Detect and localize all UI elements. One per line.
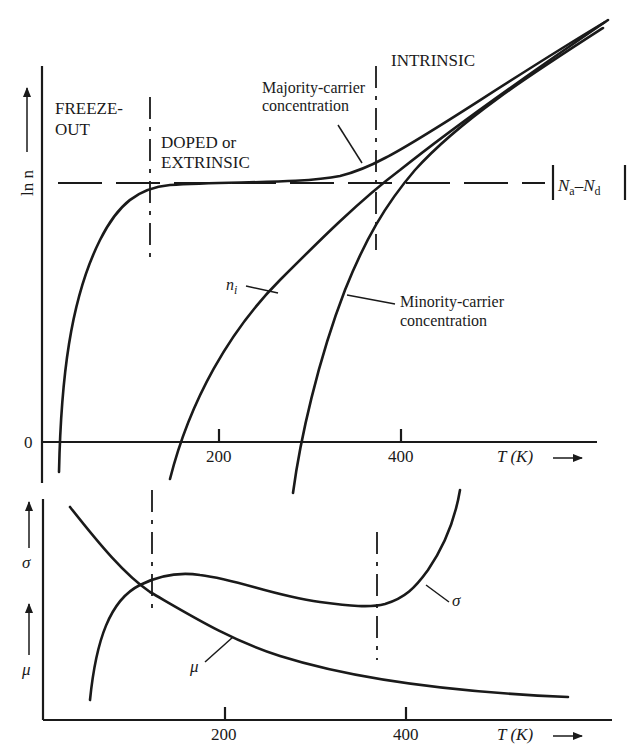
top-y-label: ln n [18, 170, 37, 196]
region-extrinsic: EXTRINSIC [161, 153, 250, 172]
top-x-tick-label-400: 400 [388, 447, 414, 466]
bottom-x-tick-label-200: 200 [211, 725, 237, 744]
minority-carrier-label: Minority-carrier [400, 293, 505, 311]
bottom-y-label-sigma: σ [22, 553, 31, 572]
top-x-tick-label-200: 200 [206, 447, 232, 466]
sigma-leader [426, 585, 449, 602]
region-intrinsic: INTRINSIC [391, 51, 475, 70]
mu-leader [205, 637, 233, 662]
mu-annotation: μ [189, 657, 199, 676]
bottom-panel: σ μ 200 400 T (K) σ μ [21, 490, 612, 744]
sigma-curve [90, 490, 460, 700]
ni-curve [170, 20, 608, 479]
minority-carrier-label-2: concentration [400, 312, 487, 329]
bottom-y-label-mu: μ [21, 660, 31, 679]
region-doped: DOPED or [161, 133, 236, 152]
bottom-x-tick-label-400: 400 [393, 725, 419, 744]
region-freeze-out: FREEZE- [55, 99, 123, 118]
top-x-label: T (K) [497, 447, 533, 466]
bottom-x-label: T (K) [497, 725, 533, 744]
region-freeze-out-2: OUT [55, 120, 91, 139]
minority-carrier-leader [347, 295, 395, 304]
ni-label: ni [226, 276, 237, 297]
na-nd-label: Na–Nd [557, 176, 601, 198]
top-panel: ln n 0 200 400 T (K) FREEZE- OUT DOPED o… [18, 20, 625, 493]
majority-carrier-label-2: concentration [262, 97, 349, 114]
sigma-annotation: σ [452, 591, 461, 610]
majority-carrier-leader [338, 125, 362, 163]
majority-carrier-label: Majority-carrier [262, 79, 366, 97]
semiconductor-carrier-figure: ln n 0 200 400 T (K) FREEZE- OUT DOPED o… [0, 0, 640, 756]
top-y-zero: 0 [24, 433, 33, 452]
